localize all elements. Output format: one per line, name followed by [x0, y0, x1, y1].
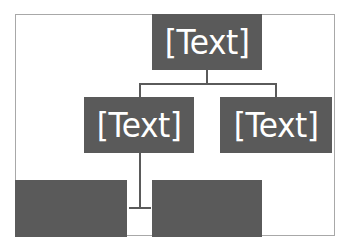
node-root-label: [Text] — [165, 25, 250, 59]
connector-right-child-vertical — [275, 83, 277, 97]
node-child-right-label: [Text] — [234, 108, 319, 142]
connector-grandchildren-horizontal — [129, 207, 151, 209]
connector-level1-horizontal — [139, 83, 276, 85]
node-child-right[interactable]: [Text] — [220, 97, 332, 153]
node-child-left-label: [Text] — [97, 108, 182, 142]
node-child-left[interactable]: [Text] — [84, 97, 194, 153]
connector-root-vertical — [206, 70, 208, 84]
connector-left-to-grandchildren-vertical — [139, 153, 141, 208]
connector-left-child-vertical — [139, 83, 141, 97]
node-root[interactable]: [Text] — [152, 14, 262, 70]
node-grandchild-right[interactable] — [152, 180, 262, 237]
node-grandchild-left[interactable] — [15, 180, 127, 237]
